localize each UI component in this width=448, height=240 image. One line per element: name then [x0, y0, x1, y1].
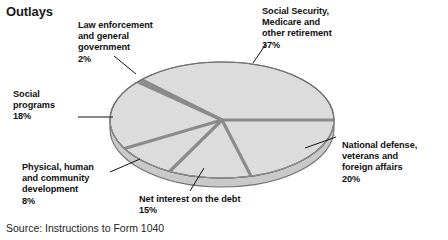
callout-law-enforcement: Law enforcement and general government 2… — [78, 20, 153, 65]
callout-physical-human: Physical, human and community developmen… — [22, 162, 94, 207]
callout-national-defense: National defense, veterans and foreign a… — [342, 140, 417, 185]
outlays-pie-figure: Outlays — [0, 0, 448, 240]
callout-social-programs: Social programs 18% — [13, 89, 55, 123]
footer-divider — [0, 214, 448, 215]
callout-social-security: Social Security, Medicare and other reti… — [262, 6, 332, 51]
source-note: Source: Instructions to Form 1040 — [6, 222, 164, 234]
